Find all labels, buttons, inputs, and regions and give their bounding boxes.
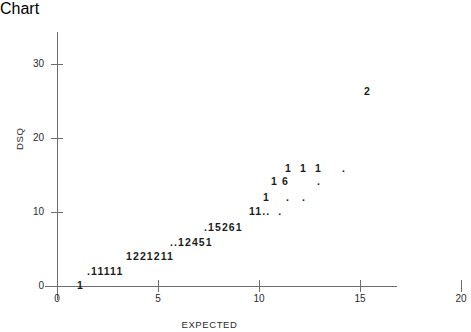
y-tick-label-0: 0 bbox=[14, 281, 44, 291]
plot-marker-row: 2 bbox=[364, 86, 371, 97]
y-tick-label-30: 30 bbox=[14, 59, 44, 69]
plot-marker-row: 1 1 1 . bbox=[285, 163, 346, 174]
x-tick-label-0: 0 bbox=[42, 294, 72, 304]
x-tick-label-5: 5 bbox=[143, 294, 173, 304]
x-tick-label-10: 10 bbox=[244, 294, 274, 304]
plot-marker-row: 1221211 bbox=[126, 251, 174, 262]
x-axis-line bbox=[45, 286, 397, 287]
plot-marker-row: .15261 bbox=[204, 222, 243, 233]
y-tick-label-10: 10 bbox=[14, 207, 44, 217]
y-axis-title: DSQ bbox=[14, 128, 25, 150]
y-tick-10 bbox=[51, 212, 63, 213]
scatter-plot: 0102030 05101520 21 1 1 .1 6 .1 . .11.. … bbox=[0, 18, 419, 332]
plot-marker-row: .11111 bbox=[87, 266, 123, 277]
x-axis-title: EXPECTED bbox=[0, 319, 419, 330]
x-tick-10 bbox=[259, 280, 260, 292]
y-tick-20 bbox=[51, 138, 63, 139]
x-tick-15 bbox=[360, 280, 361, 292]
y-tick-30 bbox=[51, 64, 63, 65]
plot-marker-row: 1 bbox=[77, 280, 84, 291]
x-tick-label-15: 15 bbox=[345, 294, 375, 304]
x-tick-0 bbox=[57, 280, 58, 292]
y-axis-line bbox=[57, 32, 58, 300]
x-tick-5 bbox=[158, 280, 159, 292]
x-tick-label-20: 20 bbox=[446, 294, 471, 304]
plot-marker-row: ..12451 bbox=[170, 237, 213, 248]
plot-marker-row: 11.. . bbox=[249, 206, 282, 217]
x-tick-20 bbox=[461, 280, 462, 292]
plot-marker-row: 1 6 . bbox=[271, 176, 321, 187]
plot-marker-row: 1 . . bbox=[263, 192, 306, 203]
